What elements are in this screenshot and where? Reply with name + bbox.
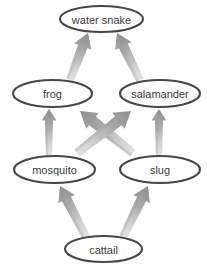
node-slug[interactable]: slug (120, 156, 200, 183)
arrow-slug-to-salamander (152, 109, 167, 155)
node-frog[interactable]: frog (13, 80, 92, 107)
node-label-cattail: cattail (89, 244, 118, 256)
food-web-diagram: water snakefrogsalamandermosquitoslugcat… (0, 0, 207, 277)
node-water_snake[interactable]: water snake (60, 6, 143, 32)
node-label-salamander: salamander (131, 88, 189, 100)
node-salamander[interactable]: salamander (120, 80, 200, 107)
arrow-cattail-to-mosquito (58, 186, 89, 239)
node-label-mosquito: mosquito (32, 164, 77, 176)
node-cattail[interactable]: cattail (65, 236, 142, 262)
arrow-layer (42, 33, 167, 239)
node-label-frog: frog (43, 88, 62, 100)
arrow-salamander-to-water-snake (115, 33, 143, 82)
arrow-shading-mosquito-to-frog (45, 121, 48, 155)
node-mosquito[interactable]: mosquito (14, 156, 95, 183)
arrow-mosquito-to-frog (42, 109, 57, 155)
arrow-shading-slug-to-salamander (155, 121, 158, 155)
node-label-water_snake: water snake (71, 14, 131, 26)
food-web-canvas: water snakefrogsalamandermosquitoslugcat… (0, 0, 207, 277)
node-label-slug: slug (150, 164, 170, 176)
